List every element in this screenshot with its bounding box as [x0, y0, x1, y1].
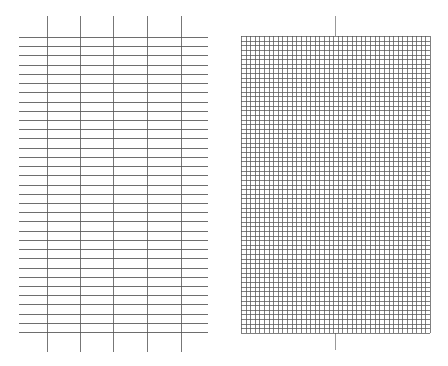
paper-templates	[0, 0, 448, 366]
ruled-sheet	[19, 16, 208, 352]
graph-sheet	[241, 16, 431, 350]
